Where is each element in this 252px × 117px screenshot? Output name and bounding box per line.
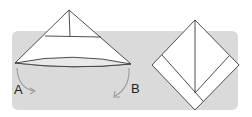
label-b: B [131,81,140,96]
label-a: A [14,82,23,97]
fold-diagram: A B [0,0,252,117]
